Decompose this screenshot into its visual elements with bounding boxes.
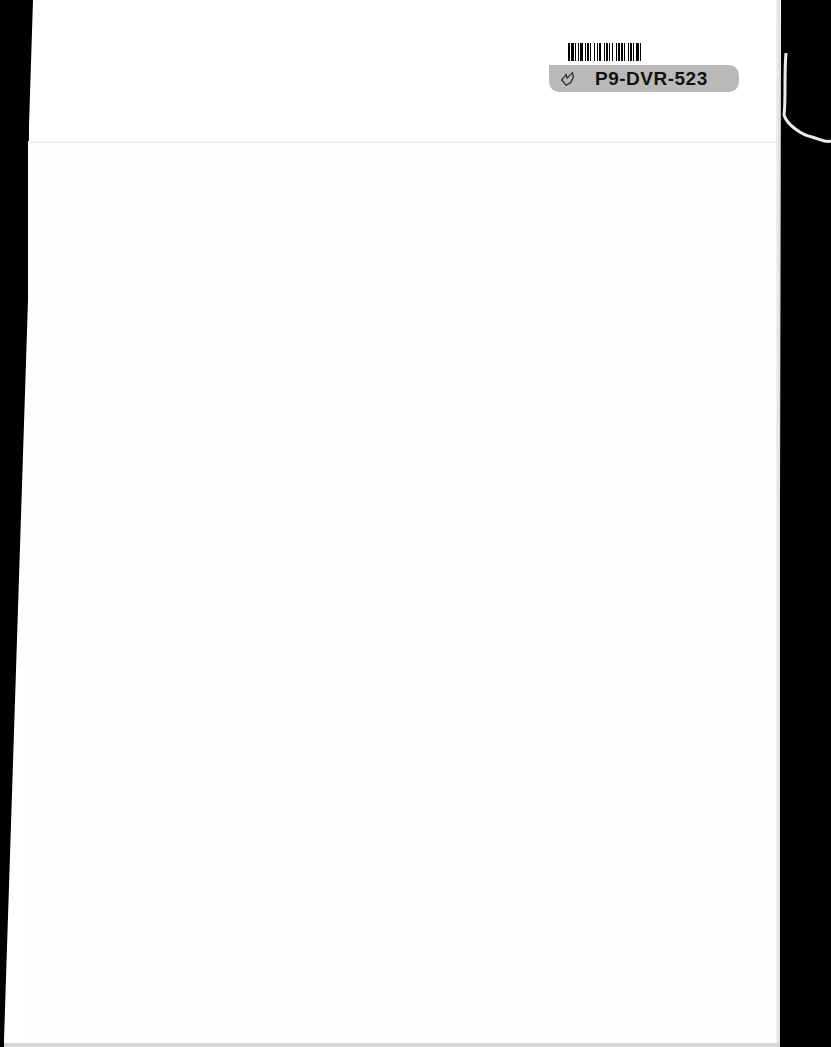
bookmark-string — [782, 45, 831, 155]
label-band: P9-DVR-523 — [549, 65, 739, 92]
page-fold-line — [28, 141, 780, 143]
book-page-body — [28, 141, 780, 1047]
hand-icon — [559, 70, 577, 88]
barcode — [568, 43, 728, 61]
barcode-code: P9-DVR-523 — [595, 68, 708, 90]
barcode-label: P9-DVR-523 — [549, 40, 739, 92]
page-bottom-edge — [4, 1043, 780, 1047]
scan-page: P9-DVR-523 — [0, 0, 831, 1047]
barcode-bar — [641, 43, 643, 61]
page-right-edge — [776, 0, 780, 1047]
